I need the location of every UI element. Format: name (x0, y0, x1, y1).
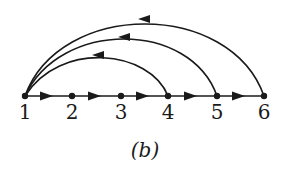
node-label-5: 5 (211, 100, 224, 124)
arrow-icon (40, 92, 53, 101)
arrow-icon (136, 92, 149, 101)
edge-5-to-1 (25, 39, 217, 96)
node-label-6: 6 (258, 100, 271, 124)
node-4 (165, 93, 171, 99)
node-6 (261, 93, 267, 99)
arrow-icon (138, 15, 150, 23)
node-3 (118, 93, 124, 99)
figure-caption: (b) (131, 138, 159, 162)
edge-4-to-1 (25, 58, 168, 96)
node-label-1: 1 (19, 100, 32, 124)
node-2 (69, 93, 75, 99)
node-label-4: 4 (162, 100, 175, 124)
arrow-icon (184, 92, 197, 101)
arrow-icon (232, 92, 245, 101)
node-5 (214, 93, 220, 99)
arrow-icon (88, 92, 101, 101)
node-label-2: 2 (66, 100, 79, 124)
edge-6-to-1 (25, 24, 264, 96)
node-1 (22, 93, 28, 99)
node-label-3: 3 (115, 100, 128, 124)
directed-graph: 1 2 3 4 5 6 (b) (0, 0, 286, 183)
